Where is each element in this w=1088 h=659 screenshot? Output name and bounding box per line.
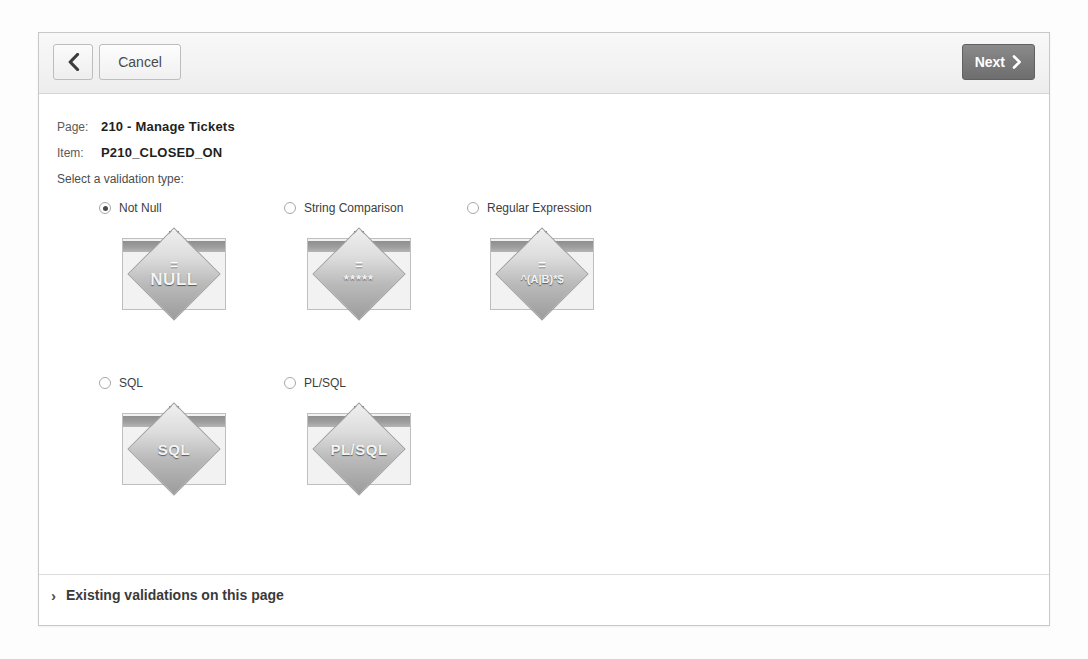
icon-not-null[interactable]: = NULL (122, 231, 226, 317)
radio-regular-expression[interactable] (467, 202, 479, 214)
validation-type-options: Not Null = NULL (39, 199, 1049, 549)
option-sql[interactable]: SQL SQL (99, 374, 284, 492)
dialog-body: Page: 210 - Manage Tickets Item: P210_CL… (39, 94, 1049, 574)
page-info-row: Page: 210 - Manage Tickets (57, 119, 235, 134)
dialog-header: Cancel Next (39, 33, 1049, 94)
option-regular-expression-label: Regular Expression (487, 201, 592, 215)
option-row-1: Not Null = NULL (39, 199, 1049, 374)
chevron-right-icon: › (51, 588, 56, 603)
validation-wizard-dialog: Cancel Next Page: 210 - Manage Tickets I… (38, 32, 1050, 626)
page-label: Page: (57, 120, 101, 134)
item-value: P210_CLOSED_ON (101, 145, 222, 160)
icon-string-comparison[interactable]: = ***** (307, 231, 411, 317)
option-string-comparison-radio-line[interactable]: String Comparison (284, 199, 469, 217)
icon-plsql[interactable]: PL/SQL (307, 406, 411, 492)
radio-not-null[interactable] (99, 202, 111, 214)
option-plsql-label: PL/SQL (304, 376, 346, 390)
next-button[interactable]: Next (962, 44, 1035, 80)
radio-plsql[interactable] (284, 377, 296, 389)
item-label: Item: (57, 146, 101, 160)
option-plsql[interactable]: PL/SQL PL/SQL (284, 374, 469, 492)
screen-root: Cancel Next Page: 210 - Manage Tickets I… (0, 0, 1088, 659)
validation-type-prompt: Select a validation type: (57, 172, 184, 186)
option-not-null[interactable]: Not Null = NULL (99, 199, 284, 317)
option-regular-expression[interactable]: Regular Expression = (467, 199, 652, 317)
chevron-left-icon (67, 53, 80, 71)
back-button[interactable] (53, 44, 93, 80)
option-row-2: SQL SQL (39, 374, 1049, 549)
icon-regular-expression[interactable]: = ^(A|B)*$ (490, 231, 594, 317)
option-not-null-radio-line[interactable]: Not Null (99, 199, 284, 217)
option-string-comparison-label: String Comparison (304, 201, 403, 215)
option-not-null-label: Not Null (119, 201, 162, 215)
option-plsql-radio-line[interactable]: PL/SQL (284, 374, 469, 392)
page-value: 210 - Manage Tickets (101, 119, 235, 134)
dialog-footer: › Existing validations on this page (39, 574, 1049, 625)
option-regular-expression-radio-line[interactable]: Regular Expression (467, 199, 652, 217)
item-info-row: Item: P210_CLOSED_ON (57, 145, 222, 160)
radio-sql[interactable] (99, 377, 111, 389)
option-sql-radio-line[interactable]: SQL (99, 374, 284, 392)
existing-validations-label: Existing validations on this page (66, 587, 284, 603)
radio-string-comparison[interactable] (284, 202, 296, 214)
existing-validations-disclosure[interactable]: › Existing validations on this page (51, 587, 284, 603)
cancel-button[interactable]: Cancel (99, 44, 181, 80)
icon-sql[interactable]: SQL (122, 406, 226, 492)
cancel-button-label: Cancel (118, 54, 162, 70)
option-sql-label: SQL (119, 376, 143, 390)
next-button-label: Next (975, 54, 1005, 70)
option-string-comparison[interactable]: String Comparison = (284, 199, 469, 317)
chevron-right-icon (1012, 55, 1022, 69)
